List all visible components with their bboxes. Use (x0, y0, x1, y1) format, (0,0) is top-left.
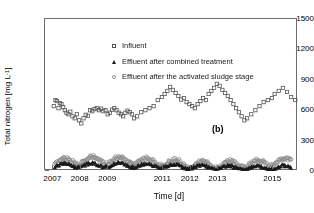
legend-item-influent: Influent (111, 41, 254, 50)
x-tick-label: 2011 (154, 174, 171, 183)
x-tick-mark (80, 165, 81, 169)
x-tick-mark (107, 165, 108, 169)
filled-triangle-icon (111, 58, 118, 65)
y-axis-title-text: Total nitrogen [mg L (3, 75, 12, 145)
x-tick-label: 2007 (43, 174, 61, 183)
legend: Influent Effluent after combined treatme… (111, 41, 254, 81)
legend-item-effluent-combined: Effluent after combined treatment (111, 57, 254, 66)
x-tick-mark (217, 165, 218, 169)
open-square-icon (111, 42, 118, 49)
chart-figure: Total nitrogen [mg L-1] 0300600900120015… (0, 0, 314, 213)
legend-label-effluent-activated-sludge: Effluent after the activated sludge stag… (122, 72, 254, 81)
plot-area: Influent Effluent after combined treatme… (44, 18, 297, 170)
x-tick-mark (162, 165, 163, 169)
y-axis-title-bracket: ] (3, 68, 12, 70)
panel-label: (b) (212, 124, 224, 134)
x-axis-title: Time [d] (40, 191, 298, 201)
x-tick-label: 2009 (98, 174, 116, 183)
x-tick-label: 2012 (181, 174, 199, 183)
open-circle-icon (111, 73, 118, 80)
x-tick-label: 2008 (71, 174, 89, 183)
x-tick-mark (272, 165, 273, 169)
x-tick-mark (190, 165, 191, 169)
y-axis-title: Total nitrogen [mg L-1] (0, 0, 14, 213)
x-tick-mark (52, 165, 53, 169)
legend-label-influent: Influent (122, 41, 147, 50)
legend-item-effluent-activated-sludge: Effluent after the activated sludge stag… (111, 72, 254, 81)
legend-label-effluent-combined: Effluent after combined treatment (122, 57, 233, 66)
x-tick-label: 2013 (208, 174, 226, 183)
y-axis-title-exponent: -1 (4, 70, 10, 75)
x-tick-label: 2015 (263, 174, 281, 183)
